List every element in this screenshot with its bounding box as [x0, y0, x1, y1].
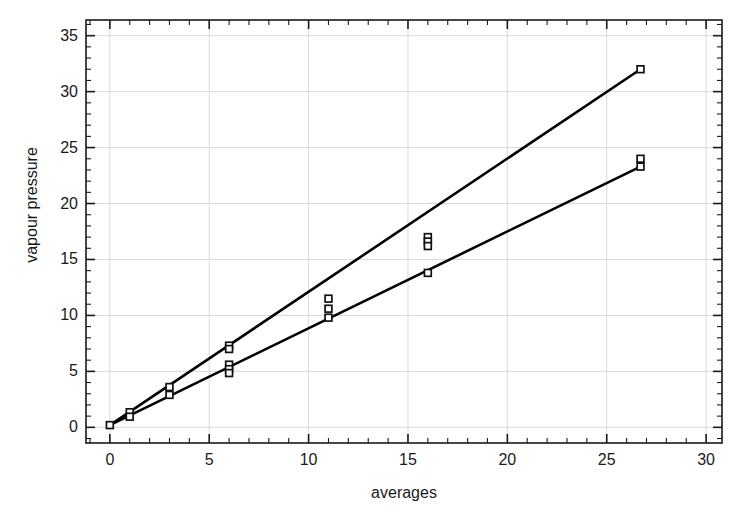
chart-figure: vapour pressure 05101520253035 051015202… — [0, 0, 737, 527]
data-point-marker — [166, 384, 173, 391]
x-tick-label: 25 — [587, 452, 627, 468]
data-point-marker — [226, 346, 233, 353]
y-tick-label: 20 — [38, 196, 78, 212]
data-point-marker — [166, 391, 173, 398]
data-point-marker — [226, 370, 233, 377]
data-point-marker — [325, 305, 332, 312]
y-tick-label: 25 — [38, 140, 78, 156]
y-tick-label: 10 — [38, 307, 78, 323]
x-tick-labels: 051015202530 — [0, 452, 737, 474]
data-point-marker — [637, 155, 644, 162]
data-point-marker — [424, 243, 431, 250]
data-point-marker — [126, 413, 133, 420]
data-point-marker — [424, 270, 431, 277]
data-point-marker — [325, 314, 332, 321]
trend-line-lower-line — [110, 167, 641, 426]
data-point-marker — [637, 66, 644, 73]
y-tick-label: 0 — [38, 419, 78, 435]
x-tick-label: 5 — [189, 452, 229, 468]
y-tick-label: 15 — [38, 251, 78, 267]
y-tick-label: 30 — [38, 84, 78, 100]
y-tick-labels: 05101520253035 — [24, 0, 78, 527]
plot-frame — [86, 20, 722, 443]
gridlines — [86, 20, 722, 443]
data-point-marker — [325, 295, 332, 302]
x-axis-label: averages — [86, 484, 722, 502]
x-tick-label: 0 — [90, 452, 130, 468]
data-point-marker — [637, 163, 644, 170]
x-tick-label: 20 — [487, 452, 527, 468]
y-tick-label: 5 — [38, 363, 78, 379]
data-point-marker — [106, 422, 113, 429]
x-tick-label: 30 — [686, 452, 726, 468]
x-tick-label: 10 — [289, 452, 329, 468]
x-tick-label: 15 — [388, 452, 428, 468]
y-tick-label: 35 — [38, 28, 78, 44]
axis-ticks — [86, 20, 722, 443]
plot-area — [0, 0, 737, 527]
